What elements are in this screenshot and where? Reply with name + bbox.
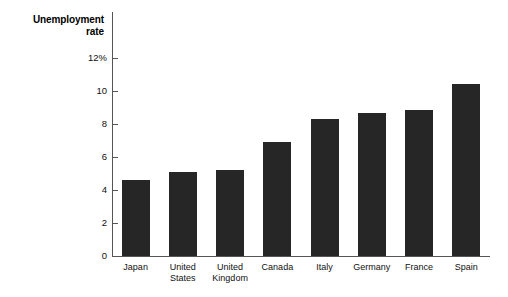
y-tick-label-text: 8 [66, 119, 107, 129]
bar-italy [311, 119, 339, 256]
y-tick-label: 4 [66, 185, 107, 195]
y-tick-label: 12% [66, 53, 107, 63]
y-tick-label: 6 [66, 152, 107, 162]
x-label-germany: Germany [348, 262, 395, 273]
y-tick-label-text: 4 [66, 185, 107, 195]
bar-spain [452, 84, 480, 256]
chart-axis-title: Unemployment rate [18, 14, 104, 37]
bar-united-states [169, 172, 197, 256]
x-label-france: France [396, 262, 443, 273]
y-tick-mark [113, 157, 118, 158]
bar-japan [122, 180, 150, 256]
bar-france [405, 110, 433, 256]
x-label-canada: Canada [254, 262, 301, 273]
x-label-united-kingdom: United Kingdom [207, 262, 254, 284]
y-tick-label: 10 [66, 86, 107, 96]
y-tick-mark [113, 256, 118, 257]
y-tick-label-text: 6 [66, 152, 107, 162]
y-tick-label: 0 [66, 251, 107, 261]
x-label-japan: Japan [112, 262, 159, 273]
y-tick-label-text: 10 [66, 86, 107, 96]
x-label-united-states: United States [159, 262, 206, 284]
x-label-spain: Spain [443, 262, 490, 273]
y-tick-label-text: 2 [66, 218, 107, 228]
y-tick-mark [113, 124, 118, 125]
y-tick-mark [113, 190, 118, 191]
y-tick-label: 2 [66, 218, 107, 228]
bar-united-kingdom [216, 170, 244, 256]
bar-canada [263, 142, 291, 256]
y-tick-label-text: 0 [66, 251, 107, 261]
unemployment-rate-bar-chart: Unemployment rate 12%1086420 JapanUnited… [0, 0, 508, 297]
x-label-italy: Italy [301, 262, 348, 273]
y-tick-label-text: 12% [66, 53, 107, 63]
y-tick-mark [113, 91, 118, 92]
y-tick-mark [113, 58, 118, 59]
x-axis-line [112, 256, 490, 257]
bar-germany [358, 113, 386, 256]
y-axis-line [112, 12, 113, 257]
y-tick-label: 8 [66, 119, 107, 129]
y-tick-mark [113, 223, 118, 224]
